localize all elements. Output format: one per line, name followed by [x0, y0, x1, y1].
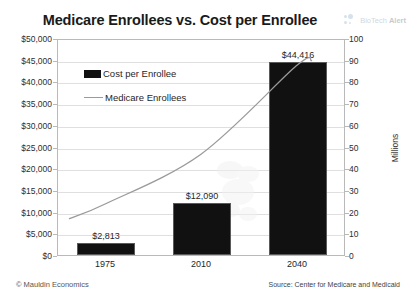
right-axis-tick: 20 — [349, 208, 377, 218]
watermark-text: BioTech Alert — [360, 16, 406, 25]
right-axis-tickmark — [345, 61, 349, 62]
x-axis-label-2040: 2040 — [287, 259, 307, 269]
right-axis-tickmark — [345, 213, 349, 214]
right-axis-tickmark — [345, 126, 349, 127]
left-axis-tickmark — [53, 256, 57, 257]
right-axis-tickmark — [345, 256, 349, 257]
right-axis-tick: 0 — [349, 251, 377, 261]
left-axis-tickmark — [53, 234, 57, 235]
left-axis-tick: $45,000 — [0, 56, 52, 66]
chart-figure: Medicare Enrollees vs. Cost per Enrollee… — [0, 0, 414, 299]
legend-swatch-line-icon — [84, 97, 103, 98]
left-axis-tick: $0 — [0, 251, 52, 261]
legend-swatch-bar-icon — [84, 70, 101, 78]
left-axis-tickmark — [53, 213, 57, 214]
left-axis-tick: $10,000 — [0, 208, 52, 218]
right-axis-tick: 40 — [349, 164, 377, 174]
legend-item-cost-per-enrollee: Cost per Enrollee — [84, 68, 186, 79]
x-axis-label-1975: 1975 — [95, 259, 115, 269]
left-axis-tick: $25,000 — [0, 143, 52, 153]
right-axis-tick: 100 — [349, 34, 377, 44]
source-note: Source: Center for Medicare and Medicaid — [268, 281, 400, 288]
legend-label-medicare-enrollees: Medicare Enrollees — [105, 92, 186, 103]
left-axis: $0$5,000$10,000$15,000$20,000$25,000$30,… — [0, 39, 52, 256]
right-axis-tick: 90 — [349, 56, 377, 66]
plot-area: $2,813$12,090$44,416 Cost per Enrollee M… — [57, 39, 345, 256]
chart-legend: Cost per Enrollee Medicare Enrollees — [84, 68, 186, 103]
right-axis-tick: 80 — [349, 77, 377, 87]
right-axis-title: Millions — [381, 39, 409, 256]
legend-item-medicare-enrollees: Medicare Enrollees — [84, 92, 186, 103]
right-axis-tickmark — [345, 39, 349, 40]
right-axis: 0102030405060708090100 — [349, 39, 383, 256]
legend-label-cost-per-enrollee: Cost per Enrollee — [103, 68, 176, 79]
right-axis-tick: 50 — [349, 143, 377, 153]
left-axis-tick: $5,000 — [0, 229, 52, 239]
watermark-text-light: BioTech — [360, 16, 387, 25]
right-axis-tick: 10 — [349, 229, 377, 239]
left-axis-tick: $40,000 — [0, 77, 52, 87]
right-axis-tickmark — [345, 148, 349, 149]
right-axis-tick: 30 — [349, 186, 377, 196]
right-axis-tickmark — [345, 82, 349, 83]
left-axis-tickmark — [53, 61, 57, 62]
left-axis-tick: $20,000 — [0, 164, 52, 174]
x-axis-categories: 197520102040 — [57, 259, 345, 273]
left-axis-tick: $35,000 — [0, 99, 52, 109]
right-axis-tick: 70 — [349, 99, 377, 109]
right-axis-title-label: Millions — [390, 133, 400, 161]
right-axis-tick: 60 — [349, 121, 377, 131]
copyright-note: © Mauldin Economics — [16, 280, 89, 289]
left-axis-tickmark — [53, 104, 57, 105]
left-axis-tickmark — [53, 82, 57, 83]
right-axis-tickmark — [345, 104, 349, 105]
left-axis-tick: $50,000 — [0, 34, 52, 44]
right-axis-tickmark — [345, 191, 349, 192]
right-axis-tickmark — [345, 234, 349, 235]
watermark-text-bold: Alert — [389, 16, 406, 25]
right-axis-tickmark — [345, 169, 349, 170]
x-axis-label-2010: 2010 — [191, 259, 211, 269]
left-axis-tick: $15,000 — [0, 186, 52, 196]
left-axis-tickmark — [53, 169, 57, 170]
left-axis-tickmark — [53, 148, 57, 149]
watermark-dots-icon — [344, 14, 357, 27]
left-axis-tickmark — [53, 126, 57, 127]
chart-title: Medicare Enrollees vs. Cost per Enrollee — [0, 12, 360, 28]
left-axis-tickmark — [53, 39, 57, 40]
left-axis-tick: $30,000 — [0, 121, 52, 131]
watermark-logo: BioTech Alert — [344, 14, 406, 27]
left-axis-tickmark — [53, 191, 57, 192]
